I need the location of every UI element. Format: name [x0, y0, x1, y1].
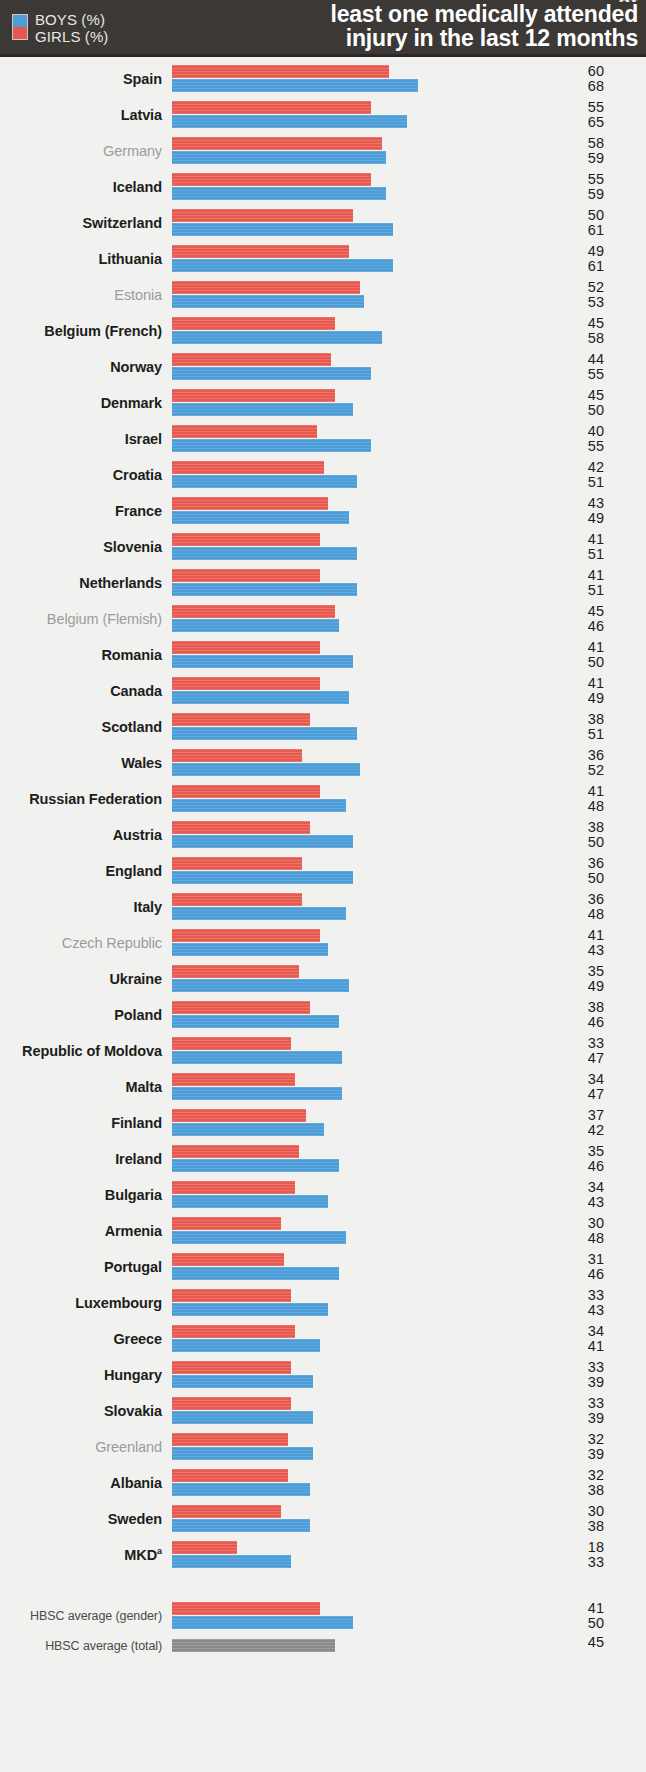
value-pair: 5061 — [564, 205, 604, 241]
value-girls: 38 — [564, 1000, 604, 1015]
bar-boys — [172, 655, 353, 668]
value-pair: 5253 — [564, 277, 604, 313]
chart-row: Israel4055 — [0, 421, 646, 457]
value-girls: 55 — [564, 172, 604, 187]
value-girls: 38 — [564, 820, 604, 835]
bar-boys — [172, 1555, 291, 1568]
value-girls: 34 — [564, 1324, 604, 1339]
country-label: Canada — [0, 684, 172, 699]
bar-girls — [172, 1541, 237, 1554]
bar-boys — [172, 295, 364, 308]
country-label: Israel — [0, 432, 172, 447]
country-label: Iceland — [0, 180, 172, 195]
value-pair: 5859 — [564, 133, 604, 169]
value-boys: 68 — [564, 79, 604, 94]
value-pair: 3347 — [564, 1033, 604, 1069]
value-pair: 3650 — [564, 853, 604, 889]
value-boys: 50 — [564, 871, 604, 886]
value-girls: 50 — [564, 208, 604, 223]
value-pair: 4558 — [564, 313, 604, 349]
value-boys: 59 — [564, 187, 604, 202]
value-pair: 3238 — [564, 1465, 604, 1501]
value-pair: 3146 — [564, 1249, 604, 1285]
value-pair: 3339 — [564, 1393, 604, 1429]
value-boys: 52 — [564, 763, 604, 778]
country-label: Czech Republic — [0, 936, 172, 951]
bar-girls — [172, 101, 371, 114]
value-girls: 41 — [564, 928, 604, 943]
bar-girls — [172, 389, 335, 402]
bar-girls — [172, 1181, 295, 1194]
bar-boys — [172, 79, 418, 92]
legend-label-girls: GIRLS (%) — [35, 28, 108, 45]
country-label: Hungary — [0, 1368, 172, 1383]
value-pair: 4143 — [564, 925, 604, 961]
bar-boys — [172, 511, 349, 524]
bar-girls — [172, 209, 353, 222]
bar-boys — [172, 223, 393, 236]
value-boys: 50 — [564, 655, 604, 670]
country-label: England — [0, 864, 172, 879]
chart-row: Finland3742 — [0, 1105, 646, 1141]
chart-row: Switzerland5061 — [0, 205, 646, 241]
country-label: Wales — [0, 756, 172, 771]
chart-row: Belgium (French)4558 — [0, 313, 646, 349]
value-girls: 41 — [564, 532, 604, 547]
value-boys: 50 — [564, 1616, 604, 1631]
value-pair: 3648 — [564, 889, 604, 925]
bar-boys — [172, 1051, 342, 1064]
country-label: Italy — [0, 900, 172, 915]
bar-girls — [172, 1001, 310, 1014]
value-girls: 49 — [564, 244, 604, 259]
value-girls: 41 — [564, 784, 604, 799]
value-boys: 46 — [564, 1267, 604, 1282]
country-label: Denmark — [0, 396, 172, 411]
chart-row: Ukraine3549 — [0, 961, 646, 997]
bar-boys — [172, 1267, 339, 1280]
bar-girls — [172, 1397, 291, 1410]
value-girls: 43 — [564, 496, 604, 511]
value-girls: 33 — [564, 1288, 604, 1303]
value-boys: 38 — [564, 1483, 604, 1498]
bar-boys — [172, 331, 382, 344]
value-pair: 4349 — [564, 493, 604, 529]
legend-label-boys: BOYS (%) — [35, 11, 108, 28]
bar-boys — [172, 1303, 328, 1316]
bar-boys — [172, 871, 353, 884]
value-pair: 5559 — [564, 169, 604, 205]
chart-row: Malta3447 — [0, 1069, 646, 1105]
bar-boys — [172, 583, 357, 596]
bar-girls — [172, 353, 331, 366]
bar-boys — [172, 151, 386, 164]
value-pair: 3441 — [564, 1321, 604, 1357]
bar-girls — [172, 137, 382, 150]
value-girls: 41 — [564, 1601, 604, 1616]
bar-boys — [172, 475, 357, 488]
value-girls: 41 — [564, 640, 604, 655]
bar-girls — [172, 821, 310, 834]
country-label: Latvia — [0, 108, 172, 123]
value-boys: 38 — [564, 1519, 604, 1534]
value-girls: 58 — [564, 136, 604, 151]
bar-girls — [172, 1145, 299, 1158]
country-label: Romania — [0, 648, 172, 663]
bar-boys — [172, 547, 357, 560]
value-pair: 3343 — [564, 1285, 604, 1321]
country-label: Norway — [0, 360, 172, 375]
value-girls: 33 — [564, 1036, 604, 1051]
country-label: France — [0, 504, 172, 519]
chart-row: Portugal3146 — [0, 1249, 646, 1285]
value-boys: 39 — [564, 1411, 604, 1426]
value-pair: 5565 — [564, 97, 604, 133]
bar-girls — [172, 461, 324, 474]
bar-boys — [172, 979, 349, 992]
country-label: Slovakia — [0, 1404, 172, 1419]
value-boys: 65 — [564, 115, 604, 130]
value-boys: 41 — [564, 1339, 604, 1354]
value-boys: 43 — [564, 943, 604, 958]
value-boys: 51 — [564, 583, 604, 598]
value-girls: 42 — [564, 460, 604, 475]
country-label: Lithuania — [0, 252, 172, 267]
bar-girls — [172, 1361, 291, 1374]
chart-row: Slovenia4151 — [0, 529, 646, 565]
